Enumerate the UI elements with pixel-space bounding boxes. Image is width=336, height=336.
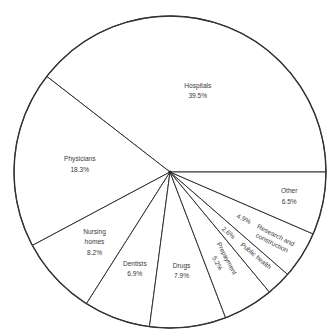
- slice-name-label: Drugs: [173, 262, 191, 270]
- slice-value-label: 7.9%: [174, 273, 189, 280]
- slice-name-label: homes: [85, 238, 105, 245]
- pie-center: [168, 170, 171, 173]
- slice-value-label: 8.2%: [87, 249, 102, 256]
- slice-value-label: 6.9%: [127, 270, 142, 277]
- slice-name-label: Hospitals: [184, 82, 212, 90]
- slice-value-label: 6.5%: [282, 198, 297, 205]
- slice-value-label: 39.5%: [188, 92, 207, 99]
- pie-slices: [14, 16, 326, 328]
- pie-chart: Hospitals39.5%Physicians18.3%Nursinghome…: [0, 0, 336, 336]
- slice-name-label: Dentists: [123, 260, 148, 267]
- slice-name-label: Other: [281, 187, 298, 194]
- slice-value-label: 18.3%: [70, 166, 89, 173]
- slice-name-label: Nursing: [83, 228, 106, 236]
- slice-name-label: Physicians: [64, 155, 96, 163]
